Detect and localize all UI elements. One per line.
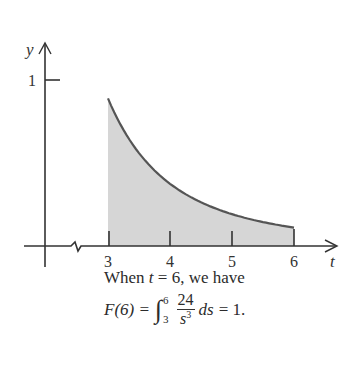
fraction: 24 s3 [177, 292, 195, 328]
numerator: 24 [177, 292, 195, 310]
caption-text: = 6, we have [154, 268, 245, 287]
shaded-area [108, 98, 294, 246]
differential: ds [199, 300, 214, 320]
upper-limit: 6 [163, 295, 169, 306]
equation-result: = 1. [219, 300, 246, 320]
caption-text: When [104, 268, 149, 287]
lower-limit: 3 [163, 314, 169, 325]
caption-line-1: When t = 6, we have [104, 268, 348, 288]
y-axis-label: y [24, 40, 34, 59]
integral-symbol: ∫ [155, 297, 162, 323]
y-tick-label-1: 1 [28, 72, 36, 89]
denominator: s3 [180, 310, 191, 328]
denominator-exponent: 3 [186, 309, 191, 320]
caption-equation: F(6) = ∫ 6 3 24 s3 ds = 1. [104, 292, 348, 328]
equation-lhs: F(6) = [104, 300, 150, 320]
integral-limits: 6 3 [163, 295, 169, 325]
